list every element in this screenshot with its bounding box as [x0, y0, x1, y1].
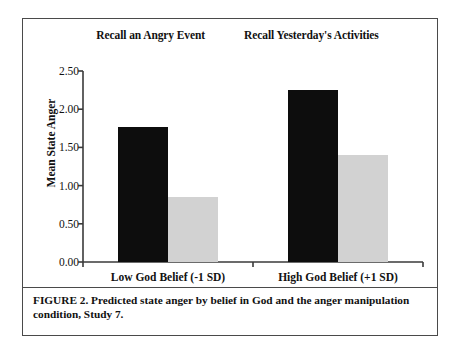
bar-1-0 — [288, 90, 338, 262]
caption-divider — [23, 287, 437, 288]
bar-0-0 — [118, 127, 168, 262]
x-axis-tick-label: Low God Belief (-1 SD) — [111, 271, 225, 283]
figure-caption: FIGURE 2. Predicted state anger by belie… — [33, 293, 427, 322]
figure-frame: Recall an Angry Event Recall Yesterday's… — [22, 18, 438, 336]
bar-1-1 — [338, 155, 388, 262]
x-axis-tick-label: High God Belief (+1 SD) — [278, 271, 398, 283]
bar-0-1 — [168, 197, 218, 262]
